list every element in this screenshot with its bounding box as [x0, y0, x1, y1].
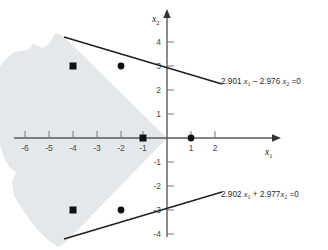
- equation-upper-text: 2.901 x1 – 2.976 x2 =0: [221, 76, 301, 87]
- square-marker--4-3: [70, 63, 77, 70]
- y-tick-label-2: 2: [156, 85, 161, 95]
- y-tick-label-4: 4: [156, 37, 161, 47]
- equation-lower-text: 2.902 x1 + 2.977x2 =0: [221, 189, 299, 200]
- scatter-plot: -6 -5 -4 -3 -2 -1 1 2 x1 4 3 2: [0, 0, 328, 250]
- equation-upper-mid: – 2.976: [251, 77, 283, 86]
- square-marker--4--3: [70, 207, 77, 214]
- circle-marker-1-0: [188, 135, 195, 142]
- x-tick-label--6: -6: [21, 143, 29, 153]
- x-tick-label-2: 2: [213, 143, 218, 153]
- equation-upper-coef1: 2.901: [221, 77, 244, 86]
- circle-marker--2--3: [118, 207, 125, 214]
- square-marker--1-0: [140, 135, 147, 142]
- x-tick-label--2: -2: [117, 143, 125, 153]
- y-axis-label: x2: [151, 14, 159, 26]
- equation-lower-coef1: 2.902: [221, 190, 244, 199]
- x-axis-label-sub: 1: [269, 152, 272, 159]
- x-tick-label--1: -1: [139, 143, 147, 153]
- x-tick-label--5: -5: [45, 143, 53, 153]
- annotation-equation-upper: 2.901 x1 – 2.976 x2 =0: [221, 76, 301, 87]
- annotation-equation-lower: 2.902 x1 + 2.977x2 =0: [221, 189, 299, 200]
- y-tick-label--4: -4: [153, 229, 161, 239]
- x-axis-label: x1: [264, 147, 272, 159]
- y-tick-label--2: -2: [153, 181, 161, 191]
- equation-lower-tail: =0: [287, 190, 299, 199]
- x-tick-label-1: 1: [189, 143, 194, 153]
- y-axis-label-sub: 2: [156, 19, 159, 26]
- x-axis-arrow: [272, 134, 281, 141]
- equation-upper-tail: =0: [289, 77, 301, 86]
- x-tick-label--3: -3: [93, 143, 101, 153]
- equation-lower-mid: + 2.977: [251, 190, 281, 199]
- y-axis: 4 3 2 1 -1 -2 -3 -4 x2: [151, 9, 174, 239]
- y-tick-label-1: 1: [156, 109, 161, 119]
- circle-marker--2-3: [118, 63, 125, 70]
- x-tick-label--4: -4: [69, 143, 77, 153]
- figure-container: -6 -5 -4 -3 -2 -1 1 2 x1 4 3 2: [0, 0, 328, 250]
- y-tick-label--1: -1: [153, 157, 161, 167]
- y-axis-arrow: [163, 9, 170, 18]
